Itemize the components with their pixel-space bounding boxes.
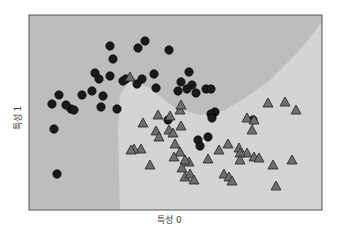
circle-marker: [106, 42, 114, 50]
circle-marker: [165, 46, 173, 54]
circle-marker: [185, 68, 193, 76]
circle-marker: [134, 44, 142, 52]
circle-marker: [78, 91, 86, 99]
circle-marker: [62, 101, 70, 109]
circle-marker: [207, 85, 215, 93]
circle-marker: [88, 87, 96, 95]
plot-area: [29, 15, 322, 210]
circle-marker: [177, 78, 185, 86]
circle-marker: [113, 105, 121, 113]
circle-marker: [174, 87, 182, 95]
scatter-plot: [0, 0, 339, 234]
circle-marker: [50, 125, 58, 133]
x-axis-label: 특성 0: [0, 213, 339, 226]
circle-marker: [55, 91, 63, 99]
circle-marker: [99, 92, 107, 100]
circle-marker: [70, 106, 78, 114]
circle-marker: [196, 142, 204, 150]
circle-marker: [152, 84, 160, 92]
circle-marker: [95, 75, 103, 83]
circle-marker: [183, 85, 191, 93]
circle-marker: [109, 55, 117, 63]
circle-marker: [192, 89, 200, 97]
circle-marker: [208, 114, 216, 122]
circle-marker: [48, 100, 56, 108]
y-axis-label: 특성 1: [11, 103, 24, 133]
circle-marker: [141, 37, 149, 45]
circle-marker: [53, 170, 61, 178]
circle-marker: [97, 103, 105, 111]
circle-marker: [150, 70, 158, 78]
circle-marker: [106, 72, 114, 80]
circle-marker: [204, 133, 212, 141]
